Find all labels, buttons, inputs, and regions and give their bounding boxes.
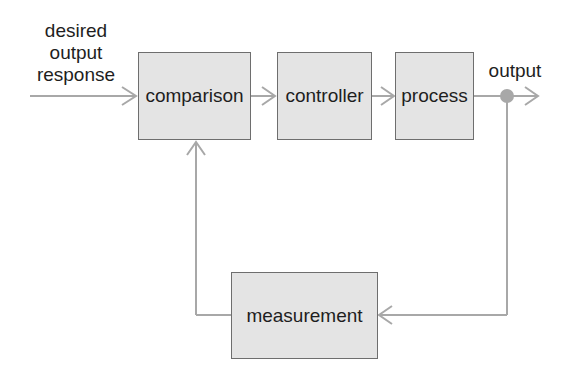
process-block: process	[395, 52, 474, 140]
controller-block: controller	[277, 52, 372, 140]
process-label: process	[401, 85, 468, 107]
output-label: output	[480, 60, 550, 82]
measurement-label: measurement	[246, 305, 362, 327]
controller-label: controller	[285, 85, 363, 107]
junction-dot	[500, 89, 514, 103]
measurement-block: measurement	[231, 272, 378, 359]
comparison-label: comparison	[145, 85, 243, 107]
comparison-block: comparison	[138, 52, 251, 140]
input-label: desired output response	[26, 20, 126, 86]
